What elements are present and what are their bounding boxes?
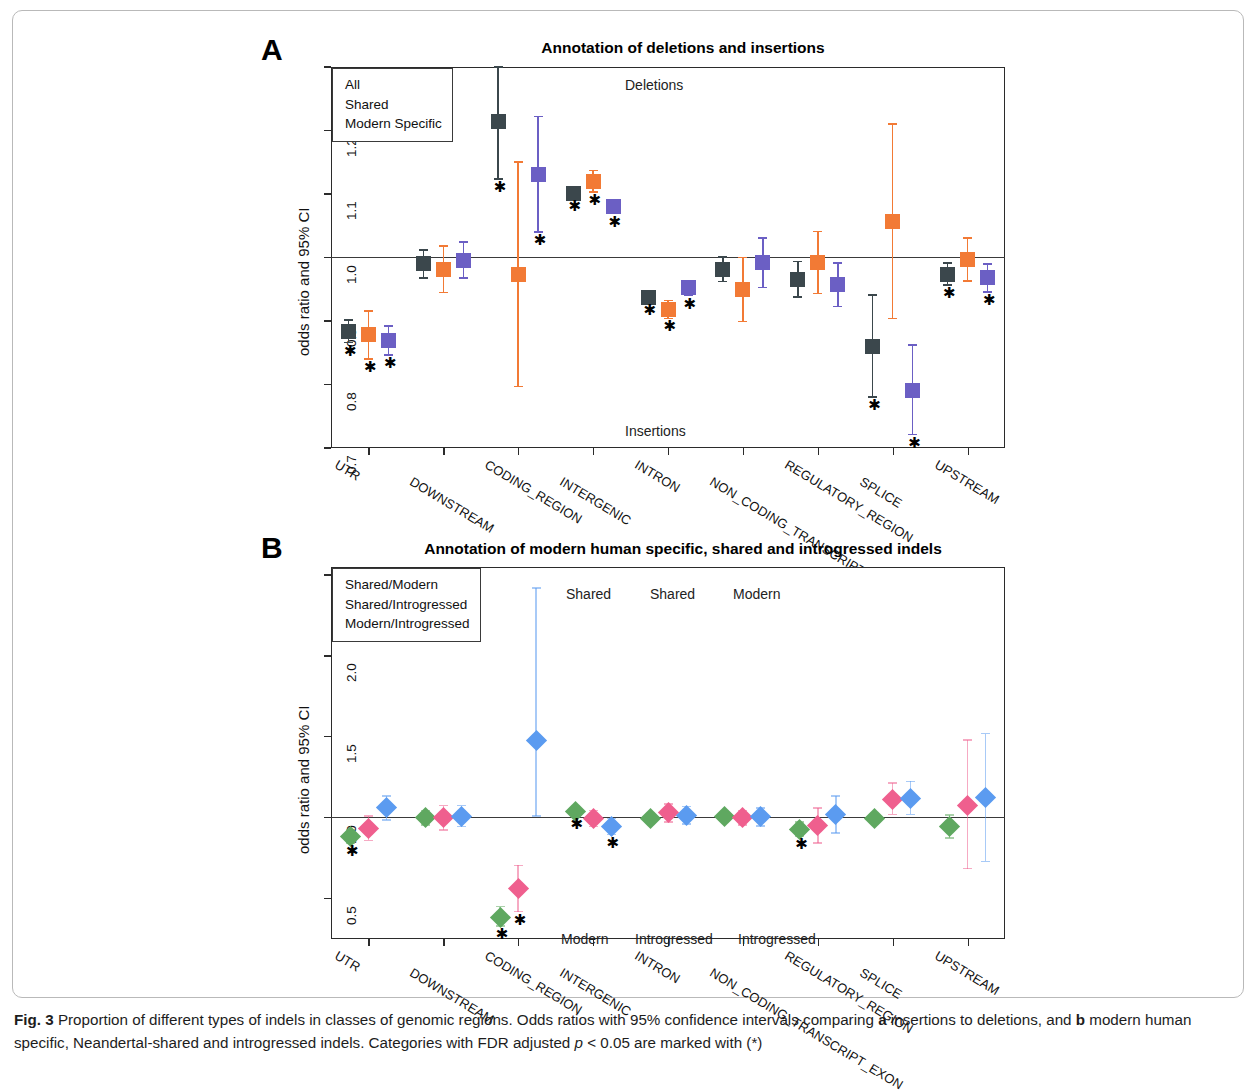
y-tick-mark — [324, 898, 331, 899]
x-tick-mark — [818, 448, 819, 455]
error-bar-cap — [983, 263, 992, 265]
significance-star: ✱ — [589, 195, 602, 205]
caption-bold-a: a — [878, 1011, 886, 1028]
error-bar-cap — [589, 170, 598, 172]
significance-star: ✱ — [607, 838, 620, 848]
x-tick-mark — [893, 939, 894, 946]
significance-star: ✱ — [609, 217, 622, 227]
error-bar-cap — [534, 116, 543, 118]
x-tick-mark — [443, 939, 444, 946]
x-tick-label: UPSTREAM — [932, 457, 1002, 507]
error-bar-cap — [943, 262, 952, 264]
data-point-marker — [885, 214, 900, 229]
x-tick-mark — [743, 448, 744, 455]
reference-line — [331, 257, 1005, 259]
data-point-marker — [790, 272, 805, 287]
error-bar-cap — [888, 782, 897, 784]
error-bar-cap — [888, 123, 897, 125]
significance-star: ✱ — [494, 182, 507, 192]
data-point-marker — [905, 383, 920, 398]
x-tick-label: UTR — [333, 948, 364, 975]
x-tick-mark — [818, 939, 819, 946]
y-tick-label: 2.0 — [344, 655, 359, 689]
significance-star: ✱ — [795, 839, 808, 849]
y-tick-mark — [324, 817, 331, 818]
error-bar-cap — [364, 840, 373, 842]
x-tick-mark — [518, 448, 519, 455]
y-tick-mark — [324, 574, 331, 575]
error-bar-cap — [831, 795, 840, 797]
error-bar-cap — [494, 66, 503, 68]
legend-item-all: All — [345, 75, 442, 95]
legend-item-modern-specific: Modern Specific — [345, 114, 442, 134]
error-bar-cap — [945, 837, 954, 839]
significance-star: ✱ — [571, 819, 584, 829]
x-tick-label: INTRON — [632, 457, 682, 496]
significance-star: ✱ — [664, 321, 677, 331]
error-bar-cap — [813, 807, 822, 809]
significance-star: ✱ — [644, 305, 657, 315]
error-bar-cap — [718, 256, 727, 258]
error-bar-cap — [738, 321, 747, 323]
significance-star: ✱ — [496, 929, 509, 939]
error-bar — [535, 588, 537, 816]
x-tick-mark — [893, 448, 894, 455]
significance-star: ✱ — [346, 846, 359, 856]
x-tick-label: INTRON — [632, 948, 682, 987]
caption-part-2: insertions to deletions, and — [887, 1011, 1076, 1028]
error-bar-cap — [738, 257, 747, 259]
error-bar-cap — [439, 829, 448, 831]
error-bar-cap — [459, 241, 468, 243]
y-tick-mark — [324, 384, 331, 385]
caption-part-4: < 0.05 are marked with (*) — [583, 1034, 762, 1051]
error-bar-cap — [813, 293, 822, 295]
y-tick-mark — [324, 66, 331, 67]
error-bar-cap — [813, 231, 822, 233]
data-point-marker — [960, 252, 975, 267]
y-tick-label: 1.0 — [344, 257, 359, 291]
error-bar-cap — [831, 832, 840, 834]
x-tick-mark — [368, 448, 369, 455]
panel-b-note-top-2: Shared — [650, 586, 695, 602]
panel-a: A Annotation of deletions and insertions… — [13, 11, 1245, 501]
error-bar-cap — [813, 842, 822, 844]
data-point-marker — [491, 114, 506, 129]
data-point-marker — [865, 339, 880, 354]
panel-b-note-bottom-3: Introgressed — [738, 931, 816, 947]
data-point-marker — [830, 277, 845, 292]
data-point-marker — [361, 327, 376, 342]
panel-b-note-top-3: Modern — [733, 586, 780, 602]
error-bar-cap — [514, 161, 523, 163]
panel-a-legend: All Shared Modern Specific — [332, 68, 453, 142]
y-tick-mark — [324, 257, 331, 258]
y-tick-label: 0.8 — [344, 384, 359, 418]
data-point-marker — [381, 333, 396, 348]
data-point-marker — [531, 167, 546, 182]
significance-star: ✱ — [868, 400, 881, 410]
data-point-marker — [436, 262, 451, 277]
error-bar-cap — [419, 277, 428, 279]
error-bar-cap — [514, 386, 523, 388]
error-bar-cap — [384, 325, 393, 327]
significance-star: ✱ — [569, 201, 582, 211]
error-bar-cap — [906, 814, 915, 816]
figure-caption: Fig. 3 Proportion of different types of … — [14, 1008, 1246, 1054]
legend-item-shared-introgressed: Shared/Introgressed — [345, 595, 470, 615]
error-bar-cap — [833, 306, 842, 308]
y-tick-mark — [324, 130, 331, 131]
y-tick-mark — [324, 736, 331, 737]
y-tick-mark — [324, 193, 331, 194]
data-point-marker — [416, 256, 431, 271]
data-point-marker — [715, 262, 730, 277]
data-point-marker — [661, 302, 676, 317]
data-point-marker — [735, 282, 750, 297]
data-point-marker — [940, 267, 955, 282]
error-bar-cap — [981, 861, 990, 863]
data-point-marker — [681, 280, 696, 295]
error-bar-cap — [868, 294, 877, 296]
x-tick-label: UTR — [333, 457, 364, 484]
significance-star: ✱ — [344, 346, 357, 356]
panel-a-title: Annotation of deletions and insertions — [343, 39, 1023, 57]
panel-b-title: Annotation of modern human specific, sha… — [313, 540, 1053, 558]
figure-frame: A Annotation of deletions and insertions… — [12, 10, 1244, 998]
